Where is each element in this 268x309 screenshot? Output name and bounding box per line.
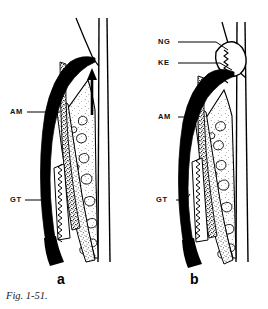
label-ke-panel-b: KE bbox=[158, 59, 170, 67]
attachment-band-b-tip bbox=[182, 238, 202, 268]
label-ng-panel-b: NG bbox=[158, 38, 170, 46]
panel-a-illustration bbox=[25, 18, 110, 266]
tooth-surface-a bbox=[98, 18, 110, 262]
label-am-panel-a: AM bbox=[10, 108, 23, 116]
figure-illustration bbox=[0, 0, 268, 309]
label-am-panel-b: AM bbox=[158, 113, 171, 121]
label-gt-panel-b: GT bbox=[156, 196, 168, 204]
figure-caption: Fig. 1-51. bbox=[6, 291, 48, 302]
panel-letter-a: a bbox=[57, 272, 65, 286]
panel-b-illustration bbox=[176, 22, 248, 268]
figure-root: AM GT NG KE AM GT a b Fig. 1-51. bbox=[0, 0, 268, 309]
attachment-band-a-tip bbox=[44, 236, 64, 266]
label-gt-panel-a: GT bbox=[10, 196, 22, 204]
panel-letter-b: b bbox=[190, 272, 199, 286]
